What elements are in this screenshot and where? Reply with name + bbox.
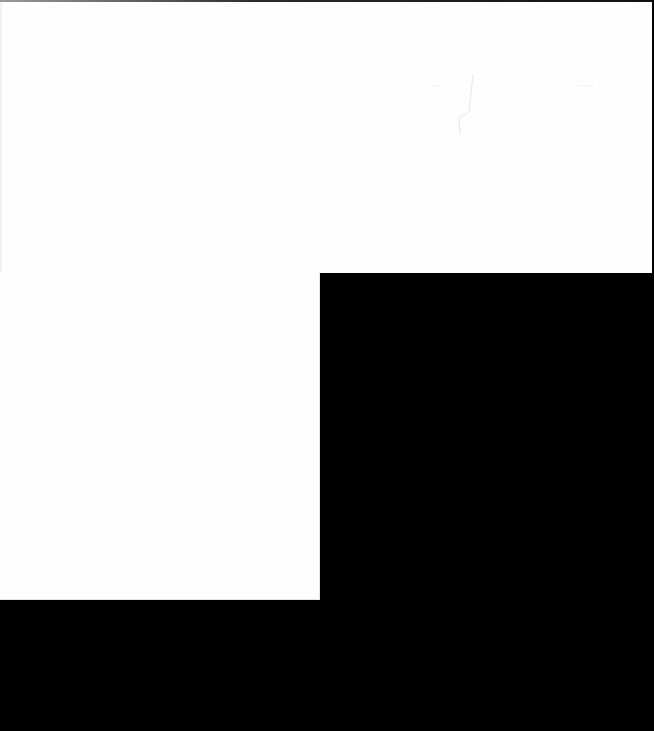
occluded-region-bottom	[0, 600, 320, 731]
occluded-region-lower-right	[320, 273, 654, 731]
blank-canvas-upper[interactable]: ~~~ ~~~~ · ·	[0, 2, 652, 273]
faint-mark: ~~~~	[577, 82, 593, 89]
faint-mark: · ·	[565, 130, 572, 137]
faint-mark: ~~~	[432, 82, 444, 89]
scribble-stroke-icon	[455, 72, 485, 142]
blank-canvas-lower-left[interactable]	[0, 273, 320, 600]
